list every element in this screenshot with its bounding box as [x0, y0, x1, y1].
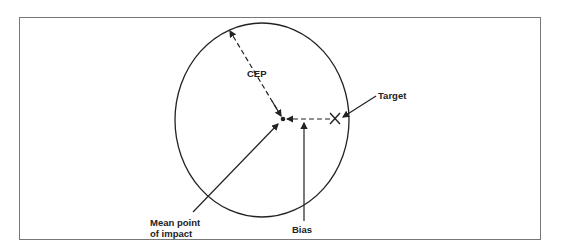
target-label: Target	[378, 90, 406, 101]
cep-label: CEP	[247, 68, 267, 79]
mean-point-of-impact-dot	[281, 117, 286, 122]
mean-point-pointer	[193, 124, 278, 212]
cep-diagram	[0, 0, 565, 250]
bias-label: Bias	[292, 224, 312, 235]
mean-point-label-line1: Mean point	[150, 217, 200, 228]
mean-point-label-line2: of impact	[150, 228, 192, 239]
cep-radius-arrow-inner	[272, 101, 281, 116]
cep-circle	[175, 23, 349, 217]
